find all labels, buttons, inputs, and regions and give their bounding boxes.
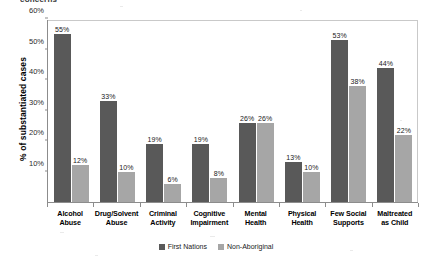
bar-value-label: 53% xyxy=(333,32,347,39)
bar: 44% xyxy=(377,68,394,202)
x-tick-mark xyxy=(418,203,419,207)
chart-title-clipped: concerns xyxy=(20,0,57,2)
bar-value-label: 44% xyxy=(379,60,393,67)
x-axis-category-label: Drug/SolventAbuse xyxy=(93,209,139,227)
bar: 53% xyxy=(331,40,348,202)
x-axis-category-label: CognitiveImpairment xyxy=(186,209,232,227)
x-tick-mark xyxy=(372,203,373,207)
x-tick-mark xyxy=(93,203,94,207)
legend-item: Non-Aboriginal xyxy=(218,243,273,250)
x-tick-mark xyxy=(279,203,280,207)
x-axis-ticks xyxy=(47,203,418,207)
scan-artifact xyxy=(350,250,353,251)
bar-value-label: 33% xyxy=(101,93,115,100)
bar-value-label: 10% xyxy=(119,164,133,171)
bar-value-label: 6% xyxy=(168,176,178,183)
legend-label: Non-Aboriginal xyxy=(227,243,273,250)
y-tick-label: 60% xyxy=(29,6,48,15)
bar: 13% xyxy=(285,162,302,202)
scan-artifact xyxy=(210,236,215,237)
bar-value-label: 13% xyxy=(286,154,300,161)
bar-value-label: 12% xyxy=(73,157,87,164)
bar: 33% xyxy=(100,101,117,202)
legend-swatch-icon xyxy=(218,244,224,250)
plot-area: 10%20%30%40%50%60% 55%12%33%10%19%6%19%8… xyxy=(47,20,418,203)
y-tick-label: 50% xyxy=(29,36,48,45)
x-axis-category-label: CriminalActivity xyxy=(140,209,186,227)
scan-artifact xyxy=(400,120,402,121)
bar-value-label: 55% xyxy=(55,26,69,33)
x-tick-mark xyxy=(186,203,187,207)
x-axis-category-label: MentalHealth xyxy=(233,209,279,227)
legend-item: First Nations xyxy=(159,243,207,250)
y-tick-label: 20% xyxy=(29,128,48,137)
x-axis-labels: AlcoholAbuseDrug/SolventAbuseCriminalAct… xyxy=(47,209,418,227)
bar-value-label: 22% xyxy=(397,127,411,134)
y-tick-label: 40% xyxy=(29,67,48,76)
legend-label: First Nations xyxy=(168,243,207,250)
bar: 22% xyxy=(395,135,412,202)
x-tick-mark xyxy=(47,203,48,207)
bar-value-label: 19% xyxy=(194,136,208,143)
bar-value-label: 19% xyxy=(148,136,162,143)
x-axis-category-label: Few SocialSupports xyxy=(325,209,371,227)
scan-artifact xyxy=(60,232,64,233)
bar-value-label: 26% xyxy=(240,115,254,122)
y-tick-label: 10% xyxy=(29,158,48,167)
y-axis-title: % of substantiated cases xyxy=(18,34,28,184)
bar-group: 44%22% xyxy=(372,20,418,202)
legend-swatch-icon xyxy=(159,244,165,250)
bar: 26% xyxy=(257,123,274,202)
bar: 26% xyxy=(239,123,256,202)
x-axis-category-label: AlcoholAbuse xyxy=(47,209,93,227)
bar-value-label: 10% xyxy=(304,164,318,171)
scan-artifact xyxy=(95,255,98,256)
bar: 8% xyxy=(210,178,227,202)
bar: 19% xyxy=(192,144,209,202)
x-tick-mark xyxy=(325,203,326,207)
bar-groups: 55%12%33%10%19%6%19%8%26%26%13%10%53%38%… xyxy=(48,20,418,202)
x-axis-category-label: PhysicalHealth xyxy=(279,209,325,227)
bar-chart: concerns % of substantiated cases 10%20%… xyxy=(0,0,432,259)
y-tick-label: 30% xyxy=(29,97,48,106)
chart-legend: First NationsNon-Aboriginal xyxy=(0,243,432,250)
x-axis-category-label: Maltreatedas Child xyxy=(372,209,418,227)
bar-group: 13%10% xyxy=(279,20,325,202)
bar-group: 55%12% xyxy=(48,20,94,202)
x-tick-mark xyxy=(233,203,234,207)
scan-artifact xyxy=(300,10,302,11)
bar: 55% xyxy=(54,34,71,202)
bar-value-label: 8% xyxy=(214,170,224,177)
bar: 10% xyxy=(118,172,135,203)
bar-group: 33%10% xyxy=(94,20,140,202)
bar: 10% xyxy=(303,172,320,203)
bar: 12% xyxy=(72,165,89,202)
bar-group: 19%6% xyxy=(141,20,187,202)
x-tick-mark xyxy=(140,203,141,207)
bar: 38% xyxy=(349,86,366,202)
bar: 19% xyxy=(146,144,163,202)
bar: 6% xyxy=(164,184,181,202)
bar-value-label: 38% xyxy=(351,78,365,85)
bar-group: 26%26% xyxy=(233,20,279,202)
bar-group: 53%38% xyxy=(326,20,372,202)
bar-value-label: 26% xyxy=(258,115,272,122)
bar-group: 19%8% xyxy=(187,20,233,202)
y-tick-mark xyxy=(45,18,48,19)
scan-artifact xyxy=(120,6,123,7)
